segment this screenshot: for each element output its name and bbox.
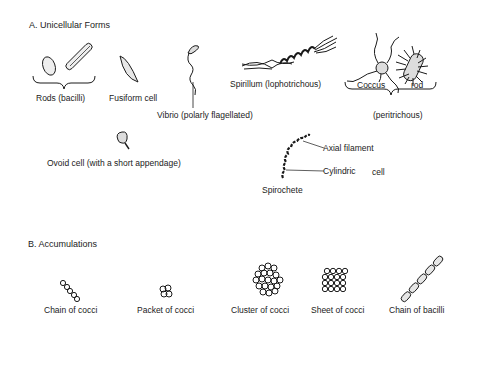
bacteria-diagram-artwork [0,0,503,375]
chain-of-bacilli-icon [400,255,444,303]
label-cylindric: Cylindric [323,166,356,176]
sheet-of-cocci-icon [322,268,347,291]
ovoid-cell-icon [117,132,129,149]
rod-short-icon [40,55,58,77]
spirillum-icon [242,36,337,69]
spirochete-icon [282,135,324,178]
label-cluster-of-cocci: Cluster of cocci [231,305,289,315]
label-packet-of-cocci: Packet of cocci [137,305,194,315]
section-heading-unicellular: A. Unicellular Forms [29,20,110,30]
label-spirochete: Spirochete [262,185,303,195]
label-cell: cell [372,167,385,177]
label-fusiform: Fusiform cell [109,93,157,103]
cluster-of-cocci-icon [253,263,283,296]
label-coccus: Coccus [357,80,385,90]
rods-brace-icon [33,76,95,89]
vibrio-icon [188,46,199,108]
label-rod: rod [411,80,423,90]
label-ovoid: Ovoid cell (with a short appendage) [47,158,181,168]
packet-of-cocci-icon [160,285,172,297]
label-rods: Rods (bacilli) [36,93,85,103]
rod-long-icon [65,42,94,71]
label-axial-filament: Axial filament [323,143,374,153]
chain-of-cocci-icon [60,280,79,301]
label-spirillum: Spirillum (lophotrichous) [230,79,321,89]
label-peritrichous: (peritrichous) [373,110,423,120]
section-heading-accumulations: B. Accumulations [28,239,97,249]
label-sheet-of-cocci: Sheet of cocci [311,305,364,315]
label-vibrio: Vibrio (polarly flagellated) [157,110,253,120]
fusiform-cell-icon [120,56,138,82]
label-chain-of-cocci: Chain of cocci [44,305,97,315]
label-chain-of-bacilli: Chain of bacilli [389,305,444,315]
